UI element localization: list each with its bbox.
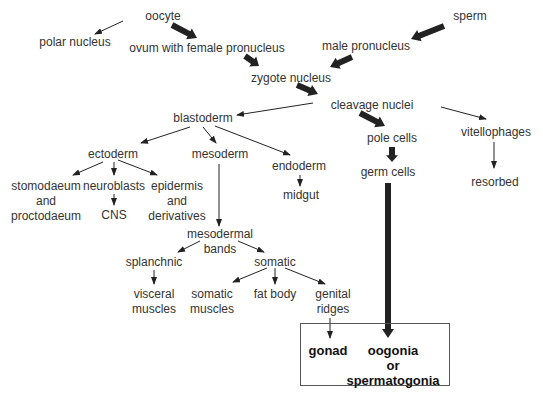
node-oocyte: oocyte — [145, 9, 180, 24]
node-male-pronucleus: male pronucleus — [322, 39, 410, 54]
node-fat-body: fat body — [254, 287, 297, 302]
edge-ectoderm-to-stomodaeum — [73, 162, 103, 175]
edge-male-pronucleus-to-zygote — [330, 54, 353, 68]
edge-somatic-to-genital-ridges — [285, 268, 325, 284]
edge-blastoderm-to-mesoderm — [203, 127, 216, 143]
thick-arrow — [386, 147, 398, 162]
node-oogonia: oogonia or spermatogonia — [346, 343, 439, 388]
node-mesodermal-bands: mesodermal bands — [187, 227, 253, 257]
edge-pole-cells-to-germ-cells — [386, 147, 398, 162]
node-vitellophages: vitellophages — [461, 125, 531, 140]
node-ectoderm: ectoderm — [88, 147, 138, 162]
arrow-line — [118, 160, 157, 175]
edge-blastoderm-to-ectoderm — [141, 127, 190, 143]
node-sperm: sperm — [453, 9, 486, 24]
edge-sperm-to-male-pronucleus — [411, 23, 445, 41]
node-blastoderm: blastoderm — [173, 111, 232, 126]
node-cns: CNS — [101, 208, 126, 223]
arrow-line — [237, 103, 313, 115]
arrow-line — [441, 107, 486, 119]
arrow-line — [233, 268, 267, 282]
node-endoderm: endoderm — [272, 159, 326, 174]
node-mesoderm: mesoderm — [192, 147, 249, 162]
thick-arrow — [171, 22, 197, 39]
thick-arrow — [411, 23, 445, 41]
edge-oocyte-to-ovum — [171, 22, 197, 39]
node-zygote: zygote nucleus — [251, 71, 331, 86]
thick-arrow — [382, 183, 394, 338]
node-midgut: midgut — [283, 188, 319, 203]
node-germ-cells: germ cells — [361, 165, 416, 180]
node-polar-nucleus: polar nucleus — [39, 35, 110, 50]
arrow-line — [95, 21, 123, 34]
node-resorbed: resorbed — [471, 175, 518, 190]
node-pole-cells: pole cells — [367, 131, 417, 146]
node-splanchnic: splanchnic — [126, 255, 183, 270]
node-ovum: ovum with female pronucleus — [129, 41, 284, 56]
node-stomodaeum: stomodaeum and proctodaeum — [11, 179, 81, 224]
arrow-line — [203, 127, 216, 143]
node-somatic-muscles: somatic muscles — [190, 287, 234, 317]
node-gonad: gonad — [309, 343, 348, 358]
node-somatic: somatic — [254, 255, 295, 270]
edge-somatic-to-somatic-muscles — [233, 268, 267, 282]
node-visceral-muscles: visceral muscles — [132, 287, 176, 317]
edge-ectoderm-to-epidermis — [118, 160, 157, 175]
edge-cleavage-to-vitellophages — [441, 107, 486, 119]
arrow-line — [141, 127, 190, 143]
node-cleavage: cleavage nuclei — [331, 98, 414, 113]
node-genital-ridges: genital ridges — [315, 287, 350, 317]
node-neuroblasts: neuroblasts — [83, 179, 145, 194]
node-epidermis: epidermis and derivatives — [148, 179, 205, 224]
edge-oocyte-to-polar-nucleus — [95, 21, 123, 34]
thick-arrow — [330, 54, 353, 68]
edge-germ-cells-to-oogonia — [382, 183, 394, 338]
arrow-line — [73, 162, 103, 175]
arrow-line — [285, 268, 325, 284]
edge-cleavage-to-blastoderm — [237, 103, 313, 115]
embryo-fate-diagram — [0, 0, 543, 397]
